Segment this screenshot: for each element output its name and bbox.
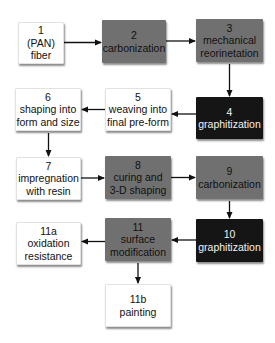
step-number: 5 xyxy=(135,91,141,104)
step-label: carbonization xyxy=(103,42,165,55)
step-label: weaving into xyxy=(109,103,167,116)
step-box-9: 9carbonization xyxy=(196,156,263,199)
step-number: 1 xyxy=(38,24,44,37)
step-label: reorinetation xyxy=(200,47,258,60)
step-number: 8 xyxy=(135,159,141,172)
step-label: graphitization xyxy=(198,118,260,131)
step-box-6: 6shaping intoform and size xyxy=(15,88,81,131)
step-box-10: 10graphitization xyxy=(196,219,263,262)
step-number: 11b xyxy=(130,293,147,306)
step-label: modification xyxy=(110,246,166,259)
step-box-3: 3mechanicalreorinetation xyxy=(196,19,263,62)
step-label: resistance xyxy=(25,250,73,263)
step-box-1: 1(PAN)fiber xyxy=(18,22,64,64)
step-label: curing and xyxy=(113,171,162,184)
step-label: oxidation xyxy=(27,237,69,250)
step-box-8: 8curing and3-D shaping xyxy=(105,156,171,199)
step-box-11b: 11bpainting xyxy=(105,284,171,327)
step-box-7: 7impregnationwith resin xyxy=(16,157,81,200)
step-label: painting xyxy=(120,306,157,319)
step-box-4: 4graphitization xyxy=(196,97,263,139)
step-label: impregnation xyxy=(18,172,79,185)
step-number: 6 xyxy=(45,91,51,104)
step-label: carbonization xyxy=(198,178,260,191)
step-label: final pre-form xyxy=(107,116,169,129)
step-label: surface xyxy=(121,233,155,246)
step-box-5: 5weaving intofinal pre-form xyxy=(105,88,171,131)
step-number: 9 xyxy=(227,165,233,178)
step-box-11a: 11aoxidationresistance xyxy=(16,222,81,265)
step-number: 2 xyxy=(131,29,137,42)
step-label: with resin xyxy=(26,185,70,198)
step-label: mechanical xyxy=(203,34,256,47)
step-box-11: 11surfacemodification xyxy=(105,218,171,261)
step-number: 3 xyxy=(227,22,233,35)
step-label: fiber xyxy=(31,49,51,62)
step-label: shaping into xyxy=(20,103,77,116)
step-box-2: 2carbonization xyxy=(102,20,166,63)
process-flow-diagram: 1(PAN)fiber2carbonization3mechanicalreor… xyxy=(0,0,275,343)
step-label: 3-D shaping xyxy=(110,184,167,197)
step-label: form and size xyxy=(16,116,79,129)
step-label: (PAN) xyxy=(27,37,55,50)
step-label: graphitization xyxy=(198,241,260,254)
step-number: 4 xyxy=(227,106,233,119)
step-number: 7 xyxy=(46,160,52,173)
step-number: 10 xyxy=(224,228,236,241)
step-number: 11 xyxy=(133,221,144,234)
step-number: 11a xyxy=(40,225,57,238)
